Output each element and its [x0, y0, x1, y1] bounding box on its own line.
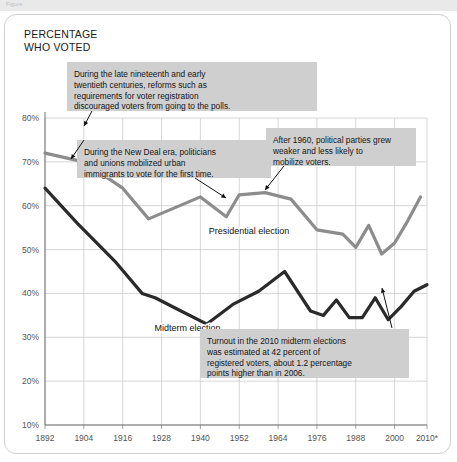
- voter-turnout-chart: 10%20%30%40%50%60%70%80%1892190419161928…: [0, 0, 457, 462]
- x-axis-tick-label: 1976: [307, 433, 326, 443]
- annotation-after-1960-line: After 1960, political parties grew: [273, 135, 392, 145]
- annotation-new-deal-line: and unions mobilized urban: [84, 158, 186, 168]
- y-axis-tick-label: 80%: [22, 113, 39, 123]
- annotation-reforms-line: During the late nineteenth and early: [74, 69, 206, 79]
- series-label: Presidential election: [209, 226, 290, 236]
- annotation-reforms-line: twentieth centuries, reforms such as: [74, 80, 207, 90]
- y-axis-tick-label: 50%: [22, 245, 39, 255]
- y-axis-tick-label: 70%: [22, 157, 39, 167]
- annotation-after-1960-line: weaker and less likely to: [272, 146, 363, 156]
- annotation-2010-turnout-line: registered voters, about 1.2 percentage: [207, 358, 352, 368]
- x-axis-tick-label: 1928: [152, 433, 171, 443]
- y-axis-tick-label: 10%: [22, 420, 39, 430]
- y-axis-tick-label: 60%: [22, 201, 39, 211]
- y-axis-tick-label: 40%: [22, 288, 39, 298]
- x-axis-tick-label: 1964: [269, 433, 288, 443]
- leader-2010: [382, 288, 392, 328]
- x-axis-tick-label: 1988: [346, 433, 365, 443]
- annotation-2010-turnout-line: points higher than in 2006.: [207, 368, 305, 378]
- x-axis-tick-label: 1916: [113, 433, 132, 443]
- y-axis-tick-label: 20%: [22, 376, 39, 386]
- x-axis-tick-label: 1952: [230, 433, 249, 443]
- leader-2010-arrowhead: [381, 288, 385, 293]
- leader-new-deal-down: [195, 178, 226, 198]
- annotation-new-deal-line: immigrants to vote for the first time.: [84, 169, 214, 179]
- annotation-new-deal-line: During the New Deal era, politicians: [84, 147, 216, 157]
- x-axis-tick-label: 1892: [36, 433, 55, 443]
- series-line: [45, 188, 427, 324]
- x-axis-tick-label: 2000: [385, 433, 404, 443]
- annotation-2010-turnout-line: was estimated at 42 percent of: [206, 347, 321, 357]
- x-axis-tick-label: 1940: [191, 433, 210, 443]
- x-axis-tick-label: 1904: [74, 433, 93, 443]
- annotation-reforms-line: discouraged voters from going to the pol…: [74, 101, 230, 111]
- x-axis-tick-label: 2010*: [416, 433, 439, 443]
- chart-canvas: 10%20%30%40%50%60%70%80%1892190419161928…: [0, 0, 457, 462]
- annotation-2010-turnout-line: Turnout in the 2010 midterm elections: [207, 336, 346, 346]
- y-axis-tick-label: 30%: [22, 332, 39, 342]
- annotation-reforms-line: requirements for voter registration: [74, 91, 199, 101]
- annotation-after-1960-line: mobilize voters.: [273, 157, 331, 167]
